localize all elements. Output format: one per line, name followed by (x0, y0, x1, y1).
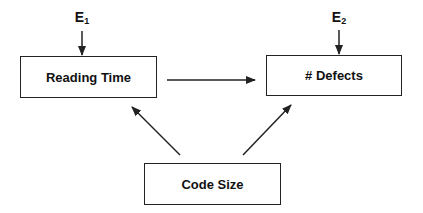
node-code-size: Code Size (144, 163, 281, 205)
causal-diagram: E1 E2 Reading Time # Defects Code Size (0, 0, 423, 213)
error-term-e2: E2 (332, 10, 346, 26)
node-reading-time-label: Reading Time (46, 70, 131, 85)
error-term-e1-base: E (75, 9, 84, 25)
edge-code-size-to-defects (243, 105, 291, 155)
error-term-e1: E1 (75, 10, 89, 26)
node-defects-label: # Defects (305, 68, 363, 83)
error-term-e1-subscript: 1 (84, 16, 89, 26)
node-reading-time: Reading Time (20, 56, 157, 98)
node-code-size-label: Code Size (181, 177, 243, 192)
error-term-e2-subscript: 2 (341, 16, 346, 26)
edge-code-size-to-reading-time (132, 107, 180, 155)
error-term-e2-base: E (332, 9, 341, 25)
node-defects: # Defects (266, 55, 402, 96)
